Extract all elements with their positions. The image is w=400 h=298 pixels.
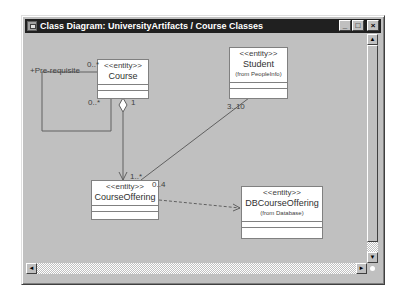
stereotype: <<entity>> [242, 188, 322, 198]
multiplicity-offering-student: 0..4 [152, 180, 165, 189]
multiplicity-offering: 1..* [130, 172, 142, 181]
operations-compartment [230, 88, 287, 94]
class-name: CourseOffering [92, 192, 158, 203]
operations-compartment [98, 90, 148, 96]
package-origin: (from Database) [242, 209, 322, 218]
multiplicity-prereq-top: 0..* [87, 60, 99, 69]
package-origin: (from PeopleInfo) [230, 70, 287, 79]
class-course[interactable]: <<entity>> Course [97, 59, 149, 99]
class-student[interactable]: <<entity>> Student (from PeopleInfo) [229, 47, 288, 99]
stereotype: <<entity>> [98, 61, 148, 71]
class-name: Student [230, 59, 287, 70]
class-name: Course [98, 71, 148, 82]
operations-compartment [242, 227, 322, 233]
dependency-line [159, 200, 240, 208]
diagram-connectors [0, 0, 400, 298]
stereotype: <<entity>> [92, 182, 158, 192]
aggregation-diamond [119, 98, 127, 112]
multiplicity-course-aggregate: 1 [131, 98, 135, 107]
class-name: DBCourseOffering [242, 198, 322, 209]
multiplicity-student: 3..10 [227, 102, 245, 111]
stereotype: <<entity>> [230, 49, 287, 59]
class-db-course-offering[interactable]: <<entity>> DBCourseOffering (from Databa… [241, 186, 323, 239]
operations-compartment [92, 211, 158, 217]
multiplicity-prereq-bottom: 0..* [88, 98, 100, 107]
role-label-prerequisite: +Pre-requisite [30, 66, 80, 75]
class-course-offering[interactable]: <<entity>> CourseOffering [91, 180, 159, 220]
